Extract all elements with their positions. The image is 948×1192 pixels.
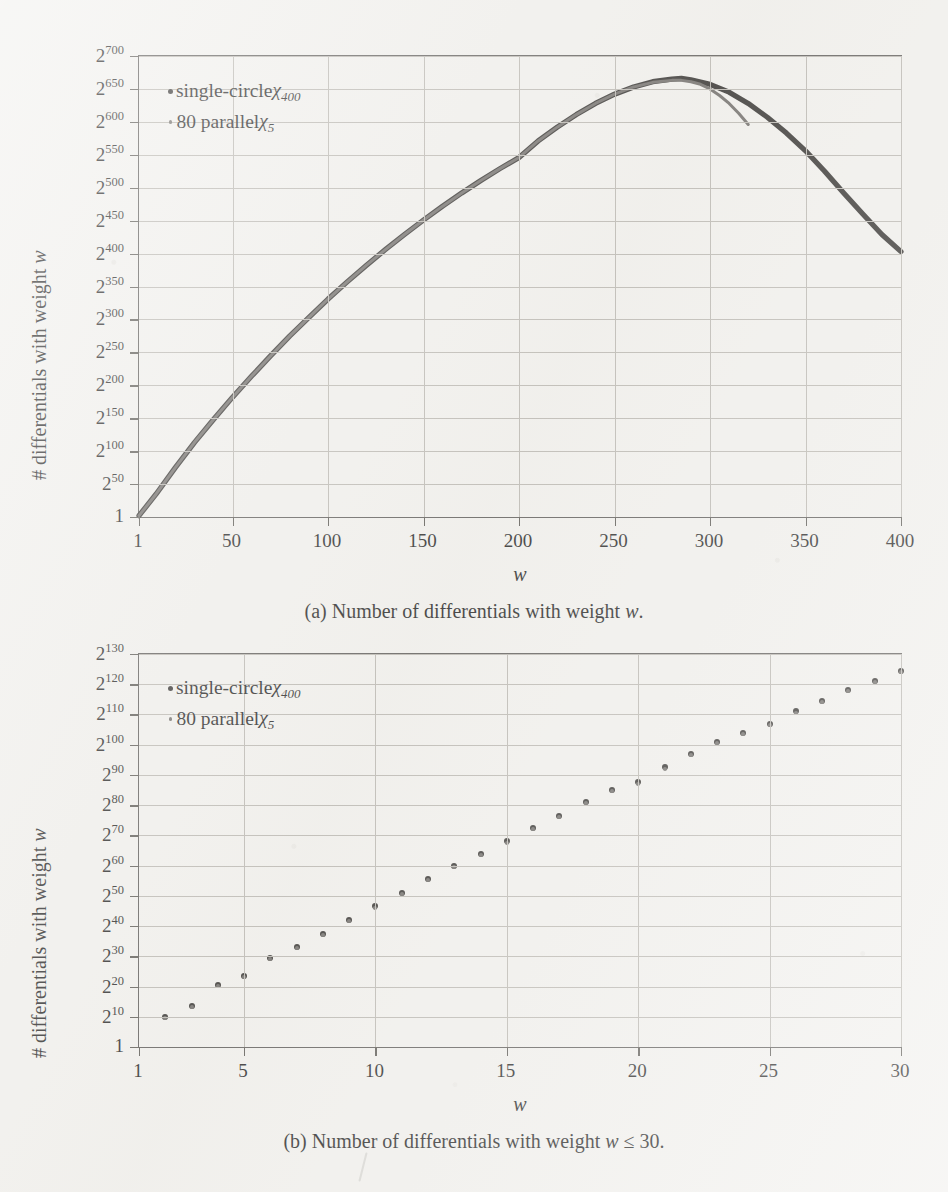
- y-axis-tick: [130, 319, 139, 320]
- panel-a-caption-prefix: (a) Number of differentials with weight: [305, 600, 621, 622]
- y-axis-tick: [130, 745, 139, 746]
- gridline-vertical: [519, 56, 520, 517]
- chi-glyph: χ: [272, 676, 281, 697]
- panel-b-legend-label-0: single-circle: [176, 674, 272, 702]
- x-axis-tick-label: 10: [365, 1060, 384, 1082]
- y-axis-tick: [130, 484, 139, 485]
- y-axis-tick-label: 2700: [96, 43, 124, 66]
- y-axis-tick: [130, 926, 139, 927]
- x-axis-tick-label: 1: [133, 1060, 143, 1082]
- x-axis-tick-label: 1: [133, 530, 143, 552]
- scatter-point: [347, 919, 351, 923]
- gridline-horizontal: [139, 775, 901, 776]
- panel-b-x-axis-title: w: [138, 1093, 902, 1116]
- x-axis-tick-label: 30: [891, 1060, 910, 1082]
- y-axis-tick: [130, 775, 139, 776]
- panel-a-caption-suffix: .: [639, 600, 644, 622]
- y-axis-tick: [130, 221, 139, 222]
- y-axis-tick-label: 2400: [96, 241, 124, 264]
- x-axis-tick: [901, 517, 902, 526]
- scatter-point: [268, 957, 272, 961]
- panel-b-caption-suffix: ≤ 30.: [624, 1130, 665, 1152]
- panel-a-legend-item-single-circle: single-circle χ400: [168, 76, 300, 107]
- legend-marker-small-dot-icon: [169, 120, 172, 123]
- x-axis-tick-label: 200: [504, 530, 533, 552]
- y-axis-tick-label: 250: [102, 471, 124, 494]
- y-axis-tick-label: 210: [102, 1004, 124, 1027]
- scatter-point: [846, 689, 850, 693]
- y-axis-tick-label: 2120: [96, 672, 124, 695]
- y-axis-tick: [130, 654, 139, 655]
- y-axis-tick: [130, 418, 139, 419]
- legend-marker-dot-icon: [168, 89, 173, 94]
- panel-a-caption-var: w: [625, 600, 638, 622]
- y-axis-tick: [130, 287, 139, 288]
- y-axis-tick: [130, 188, 139, 189]
- panel-b-legend-label-1: 80 parallel: [176, 705, 259, 733]
- y-axis-tick: [130, 714, 139, 715]
- y-axis-tick-label: 270: [102, 823, 124, 846]
- y-axis-tick: [130, 451, 139, 452]
- y-axis-tick-label: 1: [115, 505, 125, 527]
- y-axis-tick-label: 2100: [96, 732, 124, 755]
- scatter-point: [610, 789, 614, 793]
- x-axis-tick-label: 50: [222, 530, 241, 552]
- gridline-vertical: [901, 654, 902, 1047]
- x-axis-tick: [710, 517, 711, 526]
- panel-a-legend-label-1: 80 parallel: [176, 108, 259, 136]
- x-axis-tick: [375, 1047, 376, 1056]
- x-axis-tick: [615, 517, 616, 526]
- x-axis-tick-label: 250: [599, 530, 628, 552]
- y-axis-tick: [130, 155, 139, 156]
- y-axis-tick-label: 2100: [96, 438, 124, 461]
- gridline-horizontal: [139, 654, 901, 655]
- panel-b-legend-chi-1: χ5: [259, 704, 274, 735]
- x-axis-tick-label: 150: [408, 530, 437, 552]
- x-axis-tick-label: 300: [695, 530, 724, 552]
- scatter-point: [663, 767, 667, 771]
- y-axis-tick: [130, 1047, 139, 1048]
- panel-b-x-axis-title-text: w: [513, 1093, 526, 1115]
- gridline-vertical: [615, 56, 616, 517]
- scatter-point: [820, 700, 824, 704]
- y-axis-tick-label: 2600: [96, 109, 124, 132]
- scatter-point: [557, 815, 561, 819]
- panel-a-caption: (a) Number of differentials with weight …: [0, 600, 948, 623]
- panel-a-legend-chi-0: χ400: [272, 76, 300, 107]
- panel-b-y-axis-title: # differentials with weight w: [28, 828, 51, 1058]
- x-axis-tick-label: 20: [628, 1060, 647, 1082]
- gridline-horizontal: [139, 926, 901, 927]
- y-axis-tick-label: 230: [102, 944, 124, 967]
- y-axis-tick-label: 240: [102, 913, 124, 936]
- x-axis-tick: [638, 1047, 639, 1056]
- gridline-vertical: [638, 654, 639, 1047]
- y-axis-tick-label: 1: [115, 1035, 125, 1057]
- x-axis-tick-label: 100: [313, 530, 342, 552]
- gridline-vertical: [507, 654, 508, 1047]
- x-axis-tick: [519, 517, 520, 526]
- legend-marker-small-dot-icon: [169, 717, 172, 720]
- x-axis-tick: [244, 1047, 245, 1056]
- x-axis-tick-label: 350: [790, 530, 819, 552]
- x-axis-tick: [328, 517, 329, 526]
- y-axis-tick: [130, 866, 139, 867]
- panel-a-legend: single-circle χ400 80 parallel χ5: [168, 76, 300, 137]
- panel-a-y-axis-title: # differentials with weight w: [28, 250, 51, 480]
- gridline-horizontal: [139, 896, 901, 897]
- y-axis-tick-label: 2450: [96, 208, 124, 231]
- chi-glyph: χ: [272, 79, 281, 100]
- y-axis-tick: [130, 122, 139, 123]
- gridline-horizontal: [139, 745, 901, 746]
- scatter-point: [479, 853, 483, 857]
- y-axis-tick-label: 250: [102, 883, 124, 906]
- y-axis-tick: [130, 254, 139, 255]
- y-axis-tick-label: 2150: [96, 406, 124, 429]
- x-axis-tick: [233, 517, 234, 526]
- panel-b-y-axis-title-var: w: [28, 828, 50, 841]
- y-axis-tick-label: 260: [102, 853, 124, 876]
- y-axis-tick-label: 2250: [96, 340, 124, 363]
- y-axis-tick: [130, 896, 139, 897]
- chi-subscript: 5: [268, 120, 275, 135]
- scatter-point: [689, 753, 693, 757]
- y-axis-tick-label: 2110: [96, 702, 124, 725]
